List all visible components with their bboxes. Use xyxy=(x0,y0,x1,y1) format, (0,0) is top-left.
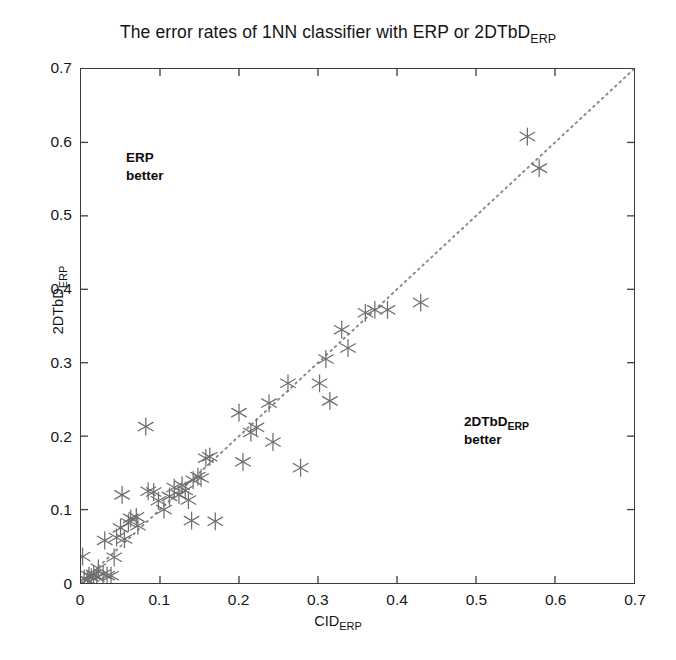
data-point xyxy=(138,418,153,435)
data-point xyxy=(202,448,217,465)
annotation-erp-better: ERP better xyxy=(126,149,164,185)
x-tick-label: 0.5 xyxy=(466,591,488,609)
data-point xyxy=(281,375,296,392)
data-point xyxy=(532,160,547,177)
x-tick-label: 0.6 xyxy=(545,591,567,609)
annotation-2dtbd-better-line2: better xyxy=(464,431,529,449)
chart-title-subscript: ERP xyxy=(530,32,556,46)
data-point xyxy=(97,532,112,549)
x-tick-label: 0.4 xyxy=(386,591,408,609)
x-tick-label: 0.2 xyxy=(228,591,250,609)
data-point xyxy=(81,548,90,565)
y-tick-label: 0.1 xyxy=(22,501,72,519)
y-axis-title-main: 2DTbD xyxy=(50,288,66,334)
x-axis-title: CIDERP xyxy=(0,613,676,629)
y-tick-label: 0.7 xyxy=(22,59,72,77)
data-point xyxy=(312,375,327,392)
annotation-2dtbd-better-subscript: ERP xyxy=(508,420,530,432)
data-point xyxy=(293,459,308,476)
x-tick-label: 0.1 xyxy=(149,591,171,609)
x-tick-label: 0 xyxy=(76,591,85,609)
data-point xyxy=(198,450,213,467)
data-point xyxy=(115,486,130,503)
data-point xyxy=(341,340,356,357)
plot-canvas xyxy=(81,69,634,583)
chart-title: The error rates of 1NN classifier with E… xyxy=(0,22,676,43)
data-point xyxy=(184,512,199,529)
y-tick-label: 0.6 xyxy=(22,133,72,151)
x-tick-label: 0.3 xyxy=(307,591,329,609)
y-axis-title-subscript: ERP xyxy=(57,266,69,289)
x-tick-label: 0.7 xyxy=(624,591,646,609)
y-axis-title: 2DTbDERP xyxy=(50,200,66,400)
annotation-2dtbd-better-main: 2DTbD xyxy=(464,414,508,429)
data-point xyxy=(520,128,535,145)
data-point xyxy=(323,392,338,409)
chart-title-main: The error rates of 1NN classifier with E… xyxy=(120,22,530,42)
data-point xyxy=(266,434,281,451)
data-point xyxy=(413,294,428,311)
plot-area: ERP better 2DTbDERP better xyxy=(80,68,635,584)
data-point xyxy=(334,321,349,338)
y-tick-label: 0.2 xyxy=(22,428,72,446)
annotation-2dtbd-better: 2DTbDERP better xyxy=(464,413,529,449)
x-axis-title-main: CID xyxy=(314,613,339,629)
data-point xyxy=(232,404,247,421)
data-point xyxy=(236,453,251,470)
data-point xyxy=(208,513,223,530)
data-point xyxy=(181,492,196,509)
x-axis-title-subscript: ERP xyxy=(339,620,362,632)
y-tick-label: 0 xyxy=(22,575,72,593)
data-point xyxy=(319,351,334,368)
annotation-erp-better-line1: ERP xyxy=(126,149,164,167)
annotation-2dtbd-better-line1: 2DTbDERP xyxy=(464,413,529,431)
data-point xyxy=(380,301,395,318)
annotation-erp-better-line2: better xyxy=(126,167,164,185)
scatter-plot-figure: The error rates of 1NN classifier with E… xyxy=(0,0,676,660)
data-point-markers xyxy=(81,128,547,583)
